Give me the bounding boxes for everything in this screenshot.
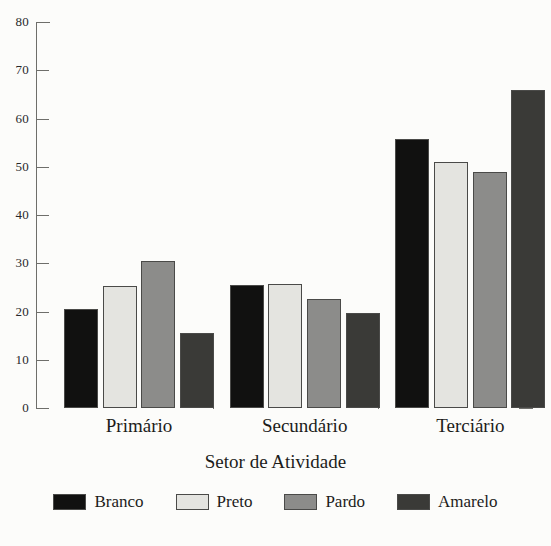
frame-corner-bottom-right-horizontal xyxy=(519,408,533,409)
y-axis-tick-mark xyxy=(36,408,49,409)
x-axis-title: Setor de Atividade xyxy=(0,450,551,474)
legend-label-branco: Branco xyxy=(94,492,143,512)
y-axis-tick: 0 xyxy=(36,408,49,409)
legend-swatch-pardo xyxy=(284,494,317,510)
bar-preto-tercirio xyxy=(434,162,468,408)
bar-branco-secundrio xyxy=(230,285,264,408)
bar-amarelo-secundrio xyxy=(346,313,380,408)
bar-chart-figure: 01020304050607080 PrimárioSecundárioTerc… xyxy=(0,0,551,546)
bar-branco-tercirio xyxy=(395,139,429,408)
bar-preto-primrio xyxy=(103,286,137,408)
y-axis-tick-label: 80 xyxy=(15,13,29,30)
y-axis-tick-label: 20 xyxy=(15,303,29,320)
legend-swatch-preto xyxy=(176,494,209,510)
legend: BrancoPretoPardoAmarelo xyxy=(0,492,551,512)
legend-item-pardo[interactable]: Pardo xyxy=(284,492,365,512)
bar-pardo-tercirio xyxy=(473,172,507,408)
legend-item-preto[interactable]: Preto xyxy=(176,492,253,512)
category-label-primrio: Primário xyxy=(54,414,224,438)
y-axis-tick-label: 10 xyxy=(15,351,29,368)
y-axis-tick-label: 60 xyxy=(15,110,29,127)
legend-item-amarelo[interactable]: Amarelo xyxy=(397,492,497,512)
y-axis-tick-label: 30 xyxy=(15,254,29,271)
bar-amarelo-primrio xyxy=(180,333,214,408)
legend-label-amarelo: Amarelo xyxy=(438,492,497,512)
legend-label-preto: Preto xyxy=(217,492,253,512)
legend-swatch-amarelo xyxy=(397,494,430,510)
category-label-secundrio: Secundário xyxy=(220,414,390,438)
y-axis-tick-label: 50 xyxy=(15,158,29,175)
bar-pardo-primrio xyxy=(141,261,175,408)
bar-preto-secundrio xyxy=(268,284,302,408)
y-axis-tick-label: 40 xyxy=(15,206,29,223)
legend-label-pardo: Pardo xyxy=(325,492,365,512)
legend-item-branco[interactable]: Branco xyxy=(53,492,143,512)
bar-branco-primrio xyxy=(64,309,98,408)
y-axis-tick-label: 0 xyxy=(22,399,29,416)
bars-layer xyxy=(36,22,533,408)
y-axis-tick-label: 70 xyxy=(15,61,29,78)
category-label-tercirio: Terciário xyxy=(385,414,551,438)
legend-swatch-branco xyxy=(53,494,86,510)
bar-pardo-secundrio xyxy=(307,299,341,408)
bar-amarelo-tercirio xyxy=(511,90,545,408)
